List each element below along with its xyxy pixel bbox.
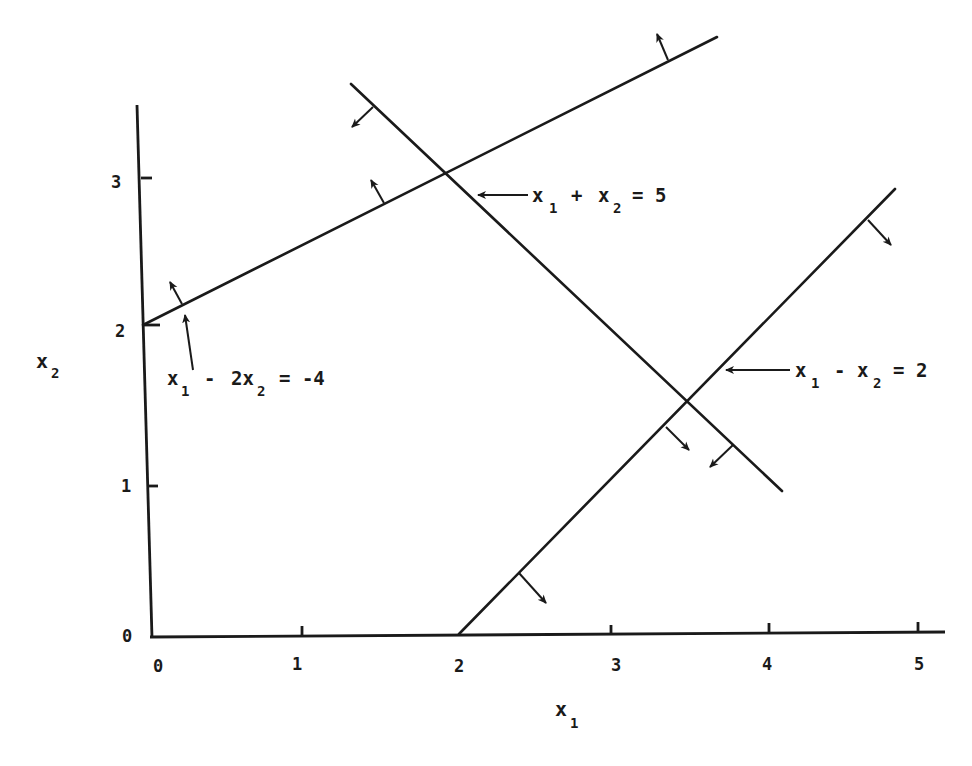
- y-tick-label-0: 0: [122, 626, 132, 646]
- constraint-line-x1-minus-x2: [459, 189, 895, 634]
- x-tick-label-4: 4: [762, 654, 772, 674]
- label-part: x: [857, 359, 868, 381]
- direction-arrow-icon: [666, 427, 689, 450]
- direction-arrow-icon: [868, 220, 891, 245]
- x-axis-title: x 1: [555, 697, 578, 731]
- x-tick-label-2: 2: [454, 656, 464, 676]
- annotation-x1-plus-x2: x 1 + x 2 = 5: [478, 184, 666, 216]
- label-part: 2: [613, 200, 621, 216]
- constraint-line-x1-plus-x2: [351, 84, 782, 491]
- constraint-line-x1-minus-2x2: [143, 34, 717, 325]
- y-axis-title-main: x: [36, 349, 48, 373]
- y-tick-labels: 3 2 1 0: [111, 172, 132, 646]
- y-tick-label-3: 3: [111, 172, 121, 192]
- line-x1-minus-x2-eq-2: [459, 189, 895, 634]
- y-tick-label-2: 2: [115, 321, 125, 341]
- label-part: = -4: [279, 367, 325, 389]
- annotation-x1-minus-x2: x 1 - x 2 = 2: [726, 359, 927, 391]
- line-x1-plus-x2-eq-5: [351, 84, 782, 491]
- label-part: x: [795, 359, 806, 381]
- y-axis: [137, 105, 152, 638]
- label-part: 1: [811, 375, 819, 391]
- x-axis-title-main: x: [555, 697, 567, 721]
- direction-arrow-icon: [170, 282, 182, 304]
- label-part: = 2: [893, 359, 927, 381]
- pointer-arrow-icon: [185, 315, 193, 370]
- x-tick-labels: 0 1 2 3 4 5: [153, 654, 924, 676]
- annotation-x1-minus-2x2: x 1 - 2x 2 = -4: [167, 315, 325, 399]
- x-tick-label-5: 5: [914, 654, 924, 674]
- label-part: x: [532, 184, 543, 206]
- label-part: x: [598, 184, 609, 206]
- y-axis-title-sub: 2: [51, 365, 59, 381]
- direction-arrow-icon: [519, 573, 546, 603]
- y-tick-label-1: 1: [121, 476, 131, 496]
- direction-arrow-icon: [657, 34, 668, 60]
- line-x1-minus-2x2-eq-neg4: [143, 37, 717, 325]
- x-tick-label-3: 3: [611, 655, 621, 675]
- label-part: -: [834, 359, 845, 381]
- label-part: 2: [257, 383, 265, 399]
- x-axis: [150, 632, 945, 637]
- y-axis-title: x 2: [36, 349, 59, 381]
- x-axis-title-sub: 1: [570, 715, 578, 731]
- label-part: 2x: [231, 367, 254, 389]
- label-part: = 5: [632, 184, 666, 206]
- label-part: x: [167, 367, 178, 389]
- direction-arrow-icon: [710, 445, 733, 467]
- direction-arrow-icon: [352, 107, 373, 127]
- label-part: 1: [549, 200, 557, 216]
- linear-constraints-chart: 3 2 1 0 0 1 2 3 4 5 x 1 x 2: [0, 0, 972, 766]
- label-part: 2: [873, 375, 881, 391]
- direction-arrow-icon: [371, 180, 384, 203]
- label-part: -: [204, 367, 215, 389]
- label-part: +: [571, 184, 582, 206]
- x-tick-label-1: 1: [292, 654, 302, 674]
- label-part: 1: [181, 383, 189, 399]
- x-tick-label-0: 0: [153, 656, 163, 676]
